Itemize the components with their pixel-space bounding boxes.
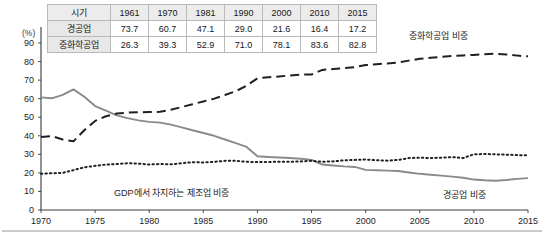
table-row-label: 경공업	[48, 21, 111, 37]
series-label-heavy-industry: 중화학공업 비중	[409, 29, 468, 42]
table-cell: 47.1	[187, 21, 225, 37]
table-header-cell: 1990	[225, 5, 263, 21]
table-header-row: 시기 1961 1970 1981 1990 2000 2010 2015	[48, 5, 377, 21]
table-header-cell: 1970	[149, 5, 187, 21]
series-label-gdp-manufacturing: GDP에서 차지하는 제조업 비중	[114, 186, 229, 199]
table-cell: 83.6	[301, 37, 339, 53]
table-cell: 52.9	[187, 37, 225, 53]
table-cell: 73.7	[111, 21, 149, 37]
table-row: 중화학공업 26.3 39.3 52.9 71.0 78.1 83.6 82.8	[48, 37, 377, 53]
table-cell: 26.3	[111, 37, 149, 53]
table-cell: 17.2	[339, 21, 377, 37]
table-cell: 71.0	[225, 37, 263, 53]
table-header-cell: 1981	[187, 5, 225, 21]
table-cell: 60.7	[149, 21, 187, 37]
table-header-cell: 1961	[111, 5, 149, 21]
table-cell: 16.4	[301, 21, 339, 37]
series-line-heavy-industry	[41, 54, 528, 142]
table-row: 경공업 73.7 60.7 47.1 29.0 21.6 16.4 17.2	[48, 21, 377, 37]
table-cell: 29.0	[225, 21, 263, 37]
table-cell: 21.6	[263, 21, 301, 37]
series-label-light-industry: 경공업 비중	[443, 188, 486, 201]
table-header-cell: 2000	[263, 5, 301, 21]
series-line-light-industry	[41, 89, 528, 180]
table-header-cell: 시기	[48, 5, 111, 21]
table-cell: 82.8	[339, 37, 377, 53]
table-header-cell: 2015	[339, 5, 377, 21]
chart-figure: 시기 1961 1970 1981 1990 2000 2010 2015 경공…	[0, 0, 544, 238]
table-cell: 39.3	[149, 37, 187, 53]
table-header-cell: 2010	[301, 5, 339, 21]
table-cell: 78.1	[263, 37, 301, 53]
table-row-label: 중화학공업	[48, 37, 111, 53]
data-table: 시기 1961 1970 1981 1990 2000 2010 2015 경공…	[47, 4, 377, 53]
